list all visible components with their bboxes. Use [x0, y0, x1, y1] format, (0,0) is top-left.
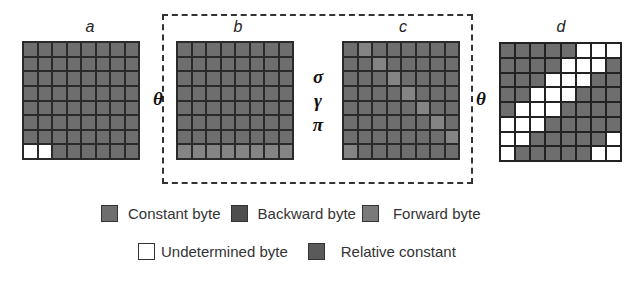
byte-cell — [236, 145, 249, 158]
byte-cell — [577, 59, 590, 72]
byte-cell — [265, 145, 278, 158]
byte-cell — [501, 103, 514, 116]
byte-cell — [24, 58, 37, 71]
byte-cell — [82, 72, 95, 85]
byte-cell — [68, 72, 81, 85]
byte-cell — [265, 58, 278, 71]
byte-cell — [446, 87, 459, 100]
byte-cell — [53, 58, 66, 71]
byte-cell — [53, 145, 66, 158]
byte-cell — [193, 87, 206, 100]
byte-cell — [592, 59, 605, 72]
byte-cell — [280, 131, 293, 144]
byte-cell — [417, 116, 430, 129]
byte-cell — [446, 72, 459, 85]
byte-cell — [97, 58, 110, 71]
byte-cell — [39, 102, 52, 115]
byte-cell — [402, 145, 415, 158]
byte-cell — [24, 116, 37, 129]
byte-cell — [402, 43, 415, 56]
forward-byte-swatch — [362, 205, 379, 222]
legend-label: Backward byte — [258, 205, 356, 222]
byte-cell — [607, 88, 620, 101]
byte-cell — [373, 131, 386, 144]
byte-cell — [39, 116, 52, 129]
byte-cell — [280, 116, 293, 129]
legend-label: Constant byte — [128, 205, 221, 222]
byte-cell — [531, 103, 544, 116]
byte-cell — [53, 43, 66, 56]
byte-cell — [39, 43, 52, 56]
byte-cell — [39, 145, 52, 158]
byte-cell — [265, 102, 278, 115]
byte-cell — [251, 43, 264, 56]
byte-cell — [251, 145, 264, 158]
byte-cell — [359, 43, 372, 56]
byte-cell — [126, 131, 139, 144]
byte-cell — [388, 145, 401, 158]
byte-cell — [97, 43, 110, 56]
legend-row-2: Undetermined byte Relative constant — [138, 243, 462, 260]
byte-cell — [577, 118, 590, 131]
byte-cell — [446, 116, 459, 129]
byte-cell — [562, 44, 575, 57]
byte-grid-b — [176, 41, 294, 160]
byte-cell — [546, 59, 559, 72]
byte-cell — [126, 145, 139, 158]
byte-cell — [577, 44, 590, 57]
byte-cell — [516, 44, 529, 57]
byte-cell — [359, 116, 372, 129]
byte-cell — [546, 133, 559, 146]
byte-cell — [178, 43, 191, 56]
byte-cell — [516, 59, 529, 72]
byte-cell — [531, 147, 544, 160]
byte-cell — [193, 145, 206, 158]
byte-cell — [417, 72, 430, 85]
byte-cell — [359, 131, 372, 144]
byte-cell — [39, 131, 52, 144]
theta-right-symbol: θ — [466, 88, 496, 110]
byte-cell — [222, 58, 235, 71]
byte-cell — [446, 102, 459, 115]
byte-cell — [251, 131, 264, 144]
byte-cell — [178, 58, 191, 71]
byte-cell — [111, 116, 124, 129]
byte-cell — [417, 58, 430, 71]
byte-cell — [501, 59, 514, 72]
byte-cell — [280, 87, 293, 100]
byte-cell — [53, 102, 66, 115]
byte-cell — [516, 133, 529, 146]
byte-cell — [207, 87, 220, 100]
byte-cell — [251, 102, 264, 115]
legend-forward-byte: Forward byte — [362, 205, 481, 222]
byte-cell — [417, 102, 430, 115]
byte-cell — [251, 58, 264, 71]
byte-cell — [126, 58, 139, 71]
byte-cell — [82, 102, 95, 115]
byte-cell — [359, 58, 372, 71]
byte-cell — [431, 102, 444, 115]
byte-cell — [344, 145, 357, 158]
byte-cell — [111, 87, 124, 100]
byte-cell — [546, 44, 559, 57]
byte-cell — [111, 43, 124, 56]
byte-cell — [446, 58, 459, 71]
byte-cell — [592, 133, 605, 146]
byte-cell — [222, 72, 235, 85]
byte-cell — [280, 43, 293, 56]
byte-cell — [431, 43, 444, 56]
byte-cell — [280, 102, 293, 115]
byte-cell — [39, 58, 52, 71]
byte-cell — [562, 103, 575, 116]
byte-cell — [39, 72, 52, 85]
sigma-symbol: σ — [303, 66, 333, 88]
grid-a-label: a — [75, 18, 105, 36]
byte-cell — [236, 72, 249, 85]
byte-cell — [222, 43, 235, 56]
byte-cell — [193, 116, 206, 129]
byte-cell — [417, 145, 430, 158]
byte-cell — [97, 87, 110, 100]
byte-cell — [97, 131, 110, 144]
byte-cell — [178, 116, 191, 129]
byte-cell — [577, 147, 590, 160]
